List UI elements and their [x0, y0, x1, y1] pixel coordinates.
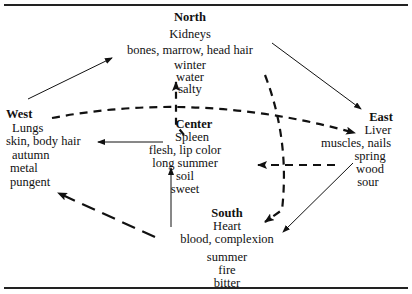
north-season: winter [120, 59, 260, 71]
south-taste: bitter [157, 277, 297, 290]
arrow-west-to-north [28, 58, 112, 99]
north-tissue: bones, marrow, head hair [120, 44, 260, 58]
node-west: West Lungs skin, body hair autumn metal … [6, 108, 96, 189]
arrow-south-to-west-dashed [58, 193, 155, 237]
arrow-north-to-east [272, 43, 361, 109]
north-element: water [120, 71, 260, 83]
east-taste: sour [322, 176, 412, 189]
node-north: North Kidneys bones, marrow, head hair w… [120, 11, 260, 95]
north-taste: salty [120, 83, 260, 95]
center-taste: sweet [135, 183, 235, 196]
north-title: North [120, 11, 260, 25]
west-season: autumn [6, 149, 96, 163]
west-element: metal [6, 162, 96, 176]
node-east: East Liver muscles, nails spring wood so… [322, 111, 412, 189]
arrow-north-to-south-dashed [265, 75, 284, 222]
west-tissue: skin, body hair [6, 135, 96, 149]
node-center: Center Spleen flesh, lip color long summ… [135, 118, 235, 196]
node-south: South Heart blood, complexion summer fir… [157, 207, 297, 290]
north-organ: Kidneys [120, 28, 260, 42]
west-title: West [6, 108, 96, 122]
west-taste: pungent [6, 176, 96, 190]
west-organ: Lungs [6, 122, 96, 136]
south-tissue: blood, complexion [157, 233, 297, 246]
